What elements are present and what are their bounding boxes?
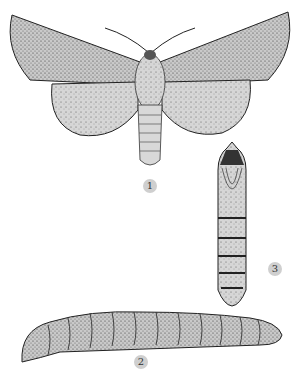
illustration-plate — [0, 0, 300, 389]
figure-label-adult: 1 — [143, 179, 157, 193]
larva — [22, 312, 282, 362]
pupa — [218, 142, 246, 306]
adult-moth — [10, 12, 290, 165]
figure-label-pupa: 3 — [268, 262, 282, 276]
figure-label-larva: 2 — [134, 355, 148, 369]
